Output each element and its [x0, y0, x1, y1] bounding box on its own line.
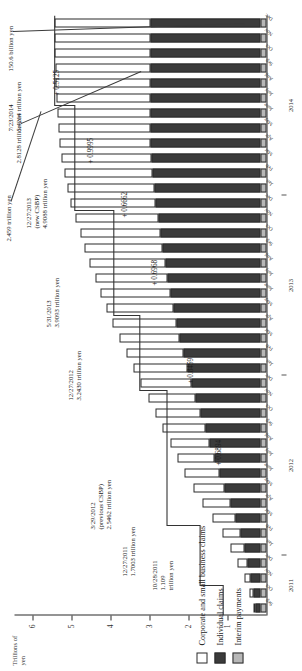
year-separator [281, 194, 286, 195]
bar-segment-indiv [150, 93, 260, 102]
bar-segment-corp [75, 213, 158, 222]
bar-segment-indiv [150, 123, 260, 132]
bar [57, 108, 267, 117]
bar [162, 423, 266, 432]
y-tick [188, 615, 189, 620]
chart-stage: Trillions of yen 654321 SepOctNovDecJanF… [0, 0, 302, 671]
bar-segment-indiv [150, 63, 260, 72]
bar-segment-corp [54, 48, 150, 57]
y-tick-label: 3 [145, 624, 153, 650]
bar-segment-indiv [191, 378, 261, 387]
delta-label: + 0.5125 [52, 69, 60, 95]
bar-segment-corp [54, 33, 150, 42]
bar-segment-corp [55, 63, 151, 72]
bar-segment-corp [54, 18, 150, 27]
y-axis-title: Trillions of yen [10, 631, 25, 665]
milestone-annotation: 3/29/2012 (previous CSBP) 2.5462 trillio… [88, 479, 112, 529]
segment-annotation: 150.6 billion yen [6, 25, 14, 71]
delta-label: + 0.6662 [120, 191, 128, 217]
bar [54, 33, 266, 42]
bar-segment-indiv [158, 213, 260, 222]
bar-segment-corp [193, 483, 224, 492]
bar-segment-indiv [150, 108, 260, 117]
bar [133, 363, 266, 372]
y-tick [32, 615, 33, 620]
bar-segment-indiv [253, 588, 260, 597]
bar-segment-indiv [235, 513, 260, 522]
bar [70, 198, 266, 207]
bar [84, 243, 266, 252]
bar [112, 318, 266, 327]
bar-segment-corp [148, 393, 196, 402]
bar [58, 123, 266, 132]
bar-segment-indiv [255, 603, 260, 612]
bar-segment-indiv [170, 288, 260, 297]
bar-segment-indiv [224, 483, 260, 492]
delta-label: + 0.6894 [214, 439, 222, 465]
bar-segment-indiv [187, 363, 260, 372]
milestone-annotation: 12/27/2012 3.2430 trillion yen [66, 350, 82, 400]
bar [75, 213, 266, 222]
bar-segment-indiv [150, 138, 260, 147]
bar-segment-indiv [150, 78, 260, 87]
bar-segment-indiv [195, 393, 260, 402]
bar-segment-corp [202, 498, 229, 507]
bar [249, 588, 266, 597]
milestone-annotation: 5/31/2013 3.9093 trillion yen [44, 277, 60, 327]
bar [155, 408, 266, 417]
bar [55, 78, 266, 87]
bar [193, 483, 266, 492]
bar [202, 498, 266, 507]
bar [119, 333, 266, 342]
legend-item-indiv: Individual claims [214, 525, 225, 663]
legend-label-corp: Corporate and small business claims [197, 525, 206, 645]
bar-segment-corp [57, 108, 151, 117]
bar-segment-indiv [230, 498, 260, 507]
bar-segment-corp [70, 198, 155, 207]
bar-segment-corp [155, 408, 200, 417]
bar [184, 468, 266, 477]
y-tick [149, 615, 150, 620]
delta-label: + 0.8459 [186, 357, 194, 383]
year-separator [281, 374, 286, 375]
bar-segment-corp [58, 123, 151, 132]
bar-segment-indiv [154, 183, 260, 192]
year-label: 2011 [286, 573, 293, 597]
bar-segment-corp [112, 318, 175, 327]
bar [148, 393, 266, 402]
milestone-annotation: 12/27/2011 1.7003 trillion yen [120, 526, 136, 576]
bar-segment-corp [170, 438, 210, 447]
chart-landscape-canvas: Trillions of yen 654321 SepOctNovDecJanF… [0, 0, 302, 671]
delta-label: + 0.9995 [86, 137, 94, 163]
bar-segment-corp [140, 378, 191, 387]
legend-swatch-indiv [214, 652, 225, 663]
bar [106, 303, 266, 312]
bar-segment-corp [133, 363, 187, 372]
year-separator [281, 554, 286, 555]
y-tick-label: 5 [67, 624, 75, 650]
bar [212, 513, 266, 522]
legend-swatch-corp [196, 652, 207, 663]
milestone-annotation: 10/28/2011 1.109 trillion yen [150, 560, 174, 590]
y-tick [110, 615, 111, 620]
segment-annotation: 2.8128 trillion yen [14, 113, 22, 163]
y-tick-label: 4 [106, 624, 114, 650]
bar-segment-corp [59, 138, 150, 147]
bar [67, 183, 266, 192]
bar-segment-corp [100, 288, 170, 297]
bar-segment-indiv [179, 333, 260, 342]
bar [54, 48, 266, 57]
bar-segment-indiv [173, 303, 261, 312]
bar-segment-corp [61, 153, 151, 162]
bar [80, 228, 266, 237]
bar [89, 258, 266, 267]
bar-segment-indiv [183, 348, 260, 357]
bar-segment-corp [162, 423, 204, 432]
y-tick [71, 615, 72, 620]
bar-segment-indiv [162, 243, 260, 252]
bar-segment-corp [177, 453, 215, 462]
bar-segment-indiv [200, 408, 260, 417]
bar-segment-indiv [160, 228, 260, 237]
bar-segment-indiv [176, 318, 260, 327]
year-label: 2014 [286, 93, 293, 117]
